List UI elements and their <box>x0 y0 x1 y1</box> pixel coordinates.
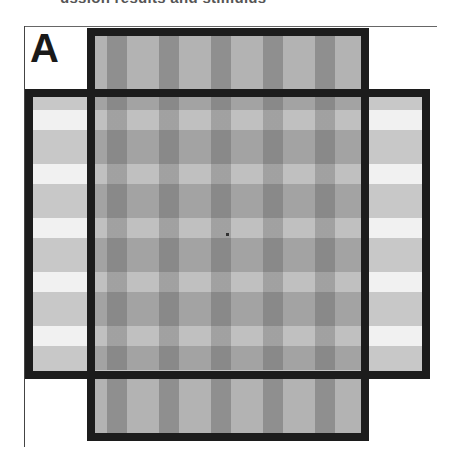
figure-caption: ussion results and stimulus <box>60 0 420 5</box>
tall-panel-left-border <box>87 89 95 379</box>
fixation-point <box>226 233 229 236</box>
tall-panel-right-border <box>361 89 369 379</box>
panel-label: A <box>30 26 59 70</box>
